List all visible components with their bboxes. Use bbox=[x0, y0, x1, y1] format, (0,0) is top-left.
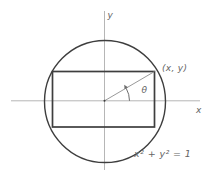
origin-point bbox=[104, 100, 106, 102]
circle-equation-label: x² + y² = 1 bbox=[133, 148, 191, 159]
inscribed-rectangle bbox=[53, 72, 155, 128]
angle-arc bbox=[126, 88, 129, 101]
point-label: (x, y) bbox=[162, 63, 187, 73]
x-axis-label: x bbox=[195, 105, 202, 115]
unit-circle-diagram: y x (x, y) θ x² + y² = 1 bbox=[0, 0, 209, 179]
angle-theta-label: θ bbox=[142, 85, 148, 95]
y-axis-label: y bbox=[107, 10, 114, 20]
unit-circle-figure: y x (x, y) θ x² + y² = 1 bbox=[0, 0, 209, 179]
